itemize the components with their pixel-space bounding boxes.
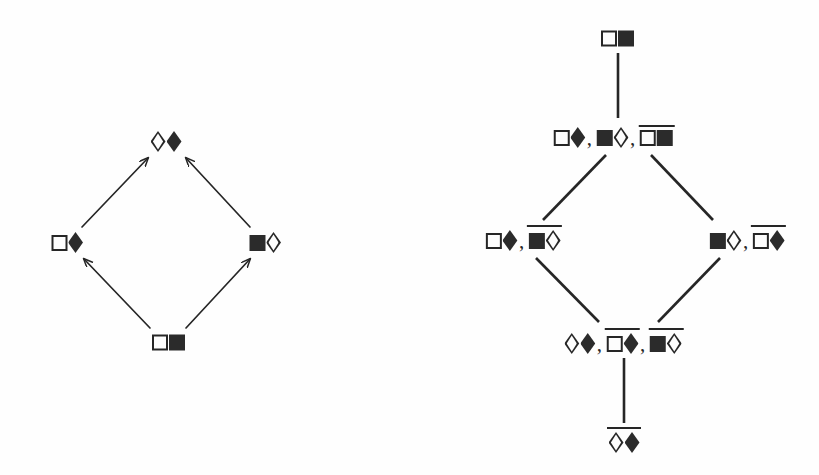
term (564, 328, 596, 354)
black-diamond-icon (624, 333, 639, 354)
white-square-icon (607, 336, 623, 352)
term (553, 122, 586, 148)
black-diamond-icon (770, 230, 785, 251)
lattice-arrow-edge (82, 158, 148, 227)
black-square-icon (249, 235, 265, 251)
lattice-edge (658, 258, 720, 322)
term (596, 122, 629, 148)
term-separator-comma: , (629, 128, 639, 149)
left-arrow-lattice-diagram (0, 0, 410, 475)
lattice-node[interactable]: ,, (564, 328, 683, 354)
lattice-node[interactable]: , (709, 225, 785, 251)
lattice-edge (536, 258, 599, 322)
white-square-icon (601, 31, 617, 47)
lattice-arrow-edge (186, 158, 250, 227)
negated-term (752, 225, 785, 251)
white-diamond-icon (609, 432, 624, 453)
black-square-icon (618, 31, 634, 47)
white-diamond-icon (151, 131, 166, 152)
negated-term (608, 427, 640, 453)
lattice-edge (651, 155, 713, 220)
white-square-icon (553, 130, 569, 146)
black-square-icon (709, 233, 725, 249)
term-separator-comma: , (742, 231, 752, 252)
white-square-icon (51, 235, 67, 251)
term-separator-comma: , (586, 128, 596, 149)
term (51, 227, 84, 253)
white-square-icon (485, 233, 501, 249)
lattice-node[interactable] (600, 26, 634, 47)
term-separator-comma: , (639, 334, 649, 355)
term-separator-comma: , (596, 334, 606, 355)
black-diamond-icon (502, 230, 517, 251)
term (151, 330, 185, 351)
lattice-node[interactable]: , (485, 225, 561, 251)
white-diamond-icon (266, 232, 281, 253)
lattice-node[interactable] (51, 227, 84, 253)
white-square-icon (640, 130, 656, 146)
black-diamond-icon (68, 232, 83, 253)
lattice-edge (543, 155, 606, 220)
black-square-icon (169, 335, 185, 351)
black-square-icon (657, 130, 673, 146)
term-separator-comma: , (518, 231, 528, 252)
lattice-node[interactable]: ,, (553, 122, 674, 148)
term (485, 225, 518, 251)
negated-term (606, 328, 639, 354)
black-diamond-icon (167, 131, 182, 152)
right-hasse-lattice-diagram: ,,,,,, (410, 0, 819, 475)
figure-canvas: ,,,,,, (0, 0, 819, 475)
lattice-node[interactable] (151, 330, 185, 351)
white-diamond-icon (614, 127, 629, 148)
lattice-arrow-edge (84, 259, 150, 328)
lattice-arrow-edge (186, 259, 250, 328)
white-diamond-icon (546, 230, 561, 251)
lattice-node[interactable] (608, 427, 640, 453)
black-diamond-icon (580, 333, 595, 354)
black-square-icon (597, 130, 613, 146)
white-square-icon (152, 335, 168, 351)
black-square-icon (650, 336, 666, 352)
negated-term (639, 125, 673, 146)
negated-term (528, 225, 561, 251)
black-square-icon (529, 233, 545, 249)
lattice-node[interactable] (249, 227, 282, 253)
white-diamond-icon (726, 230, 741, 251)
black-diamond-icon (570, 127, 585, 148)
white-diamond-icon (564, 333, 579, 354)
white-diamond-icon (667, 333, 682, 354)
white-square-icon (753, 233, 769, 249)
lattice-node[interactable] (150, 126, 182, 152)
term (249, 227, 282, 253)
term (150, 126, 182, 152)
black-diamond-icon (625, 432, 640, 453)
negated-term (649, 328, 682, 354)
term (709, 225, 742, 251)
term (600, 26, 634, 47)
